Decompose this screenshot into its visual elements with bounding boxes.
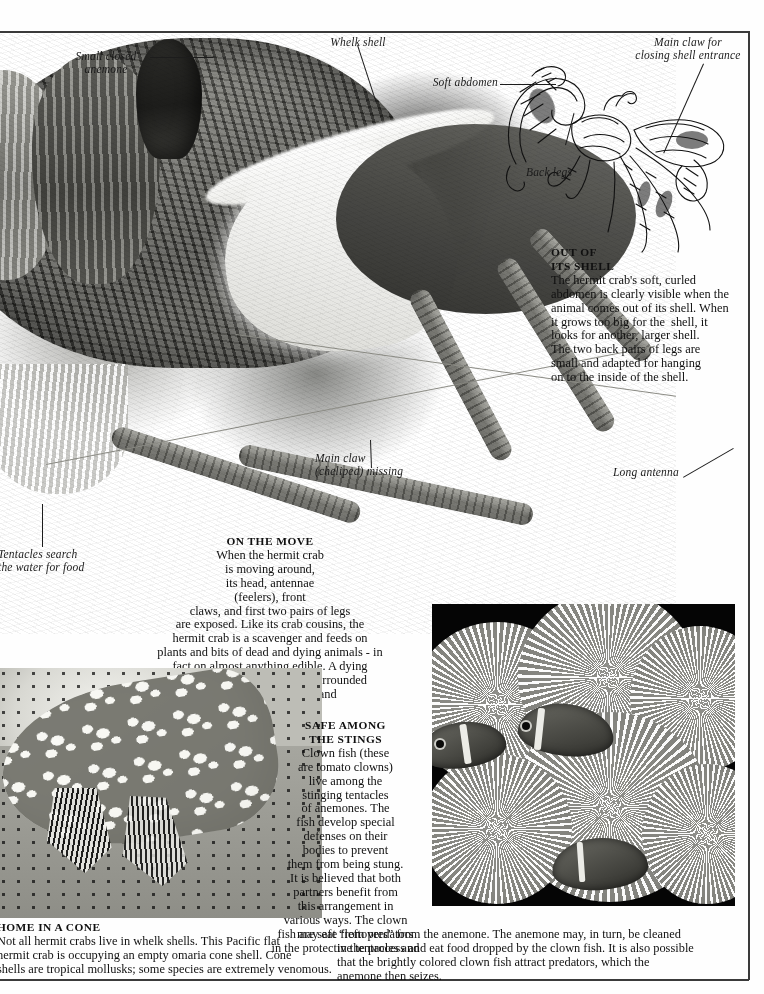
figure-clownfish-in-anemone <box>432 604 735 906</box>
caption-body-line: that the brightly colored clown fish att… <box>337 956 747 970</box>
caption-body-line: animal comes out of its shell. When <box>551 302 741 316</box>
label-long-antenna: Long antenna <box>613 466 723 479</box>
caption-body-line: The hermit crab's soft, curled <box>551 274 741 288</box>
caption-body-line: fish develop special <box>258 816 433 830</box>
caption-heading-line: ITS SHELL <box>551 260 741 274</box>
caption-body-line: shells are tropical mollusks; some speci… <box>0 963 337 977</box>
leader-small-closed-anemone <box>150 57 213 58</box>
caption-body-line: defenses on their <box>258 830 433 844</box>
caption-body-line: are tomato clowns) <box>258 761 433 775</box>
caption-heading-line: SAFE AMONG <box>258 719 433 733</box>
caption-body-line: claws, and first two pairs of legs <box>95 605 445 619</box>
caption-body-line: hermit crab is a scavenger and feeds on <box>95 632 445 646</box>
caption-body-line: partners benefit from <box>258 886 433 900</box>
caption-body-line: it grows too big for the shell, it <box>551 316 741 330</box>
caption-body-line: hermit crab is occupying an empty omaria… <box>0 949 337 963</box>
caption-body-line: may eat “leftovers” from the anemone. Th… <box>297 928 747 942</box>
caption-heading-line: OUT OF <box>551 246 741 260</box>
caption-body-line: Clown fish (these <box>258 747 433 761</box>
caption-body-line: bodies to prevent <box>258 844 433 858</box>
caption-body-line: in the process and eat food dropped by t… <box>337 942 747 956</box>
caption-heading-line: HOME IN A CONE <box>0 921 337 935</box>
caption-heading-line: THE STINGS <box>258 733 433 747</box>
caption-body-line: Not all hermit crabs live in whelk shell… <box>0 935 337 949</box>
caption-body-line: small and adapted for hanging <box>551 357 741 371</box>
caption-body-line: is moving around, <box>95 563 445 577</box>
caption-body-line: on to the inside of the shell. <box>551 371 741 385</box>
leader-soft-abdomen <box>500 84 556 85</box>
caption-body-line: them from being stung. <box>258 858 433 872</box>
label-main-claw-cheliped-missing: Main claw (cheliped) missing <box>315 452 475 478</box>
caption-body-line: plants and bits of dead and dying animal… <box>95 646 445 660</box>
caption-body-line: this arrangement in <box>258 900 433 914</box>
label-soft-abdomen: Soft abdomen <box>400 76 498 89</box>
caption-body-line: When the hermit crab <box>95 549 445 563</box>
leader-tentacles-search <box>42 504 43 547</box>
caption-body-line: stinging tentacles <box>258 789 433 803</box>
label-whelk-shell: Whelk shell <box>308 36 408 49</box>
page-rule-right <box>748 31 750 980</box>
figure-hermit-crab-out-of-shell <box>496 44 744 254</box>
caption-body-line: (feelers), front <box>95 591 445 605</box>
caption-body-line: its head, antennae <box>95 577 445 591</box>
clownfish-eye <box>436 740 444 748</box>
caption-heading-line: ON THE MOVE <box>95 535 445 549</box>
label-small-closed-anemone: Small closed anemone <box>62 50 150 76</box>
label-back-legs: Back legs <box>516 166 582 179</box>
caption-body-line: live among the <box>258 775 433 789</box>
caption-safe-among-the-stings: SAFE AMONG THE STINGS Clown fish (these … <box>258 719 433 955</box>
caption-body-line: are exposed. Like its crab cousins, the <box>95 618 445 632</box>
caption-body-line: It is believed that both <box>258 872 433 886</box>
caption-body-line: anemone then seizes. <box>337 970 747 984</box>
page-rule-top <box>0 31 749 33</box>
page-canvas: Small closed anemone Whelk shell Soft ab… <box>0 0 764 994</box>
caption-body-line: The two back pairs of legs are <box>551 343 741 357</box>
caption-body-line: abdomen is clearly visible when the <box>551 288 741 302</box>
caption-body-line: of anemones. The <box>258 802 433 816</box>
caption-safe-among-the-stings-runover: may eat “leftovers” from the anemone. Th… <box>337 928 747 984</box>
caption-home-in-a-cone: HOME IN A CONE Not all hermit crabs live… <box>0 921 337 977</box>
caption-body-line: looks for another, larger shell. <box>551 329 741 343</box>
label-main-claw-for-closing-shell-entrance: Main claw for closing shell entrance <box>620 36 756 62</box>
clownfish-eye <box>522 722 530 730</box>
caption-out-of-its-shell: OUT OF ITS SHELL The hermit crab's soft,… <box>551 246 741 385</box>
